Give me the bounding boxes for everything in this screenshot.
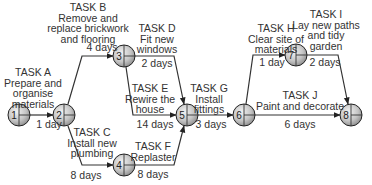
task-description-line: fittings <box>194 103 224 115</box>
node-number: 4 <box>116 160 122 171</box>
task-duration-h: 1 day <box>259 56 285 68</box>
task-duration-f: 8 days <box>138 168 169 180</box>
task-description-line: Replaster <box>131 151 176 163</box>
task-arrow-b <box>68 56 113 104</box>
task-description-line: materials <box>255 43 298 55</box>
task-duration-b: 4 days <box>87 41 118 53</box>
task-description-line: windows <box>136 43 177 55</box>
task-description-line: garden <box>310 40 343 52</box>
task-duration-a: 1 day <box>36 118 62 130</box>
task-duration-e: 14 days <box>137 118 174 130</box>
labels-layer: TASK APrepare andorganisematerials1 dayT… <box>4 1 360 181</box>
task-duration-i: 2 days <box>310 56 341 68</box>
task-description-line: plumbing <box>71 147 114 159</box>
task-duration-j: 6 days <box>285 118 316 130</box>
node-number: 6 <box>236 110 242 121</box>
node-number: 8 <box>343 110 349 121</box>
event-node-6: 6 <box>233 104 255 126</box>
node-number: 1 <box>11 110 17 121</box>
node-number: 5 <box>179 110 185 121</box>
network-diagram: 12345678 TASK APrepare andorganisemateri… <box>0 0 372 185</box>
task-duration-c: 8 days <box>71 169 102 181</box>
task-duration-d: 2 days <box>142 57 173 69</box>
task-description-line: Paint and decorate <box>256 100 344 112</box>
task-duration-g: 3 days <box>196 118 227 130</box>
task-description-line: materials <box>12 98 55 110</box>
task-description-line: house <box>136 103 165 115</box>
